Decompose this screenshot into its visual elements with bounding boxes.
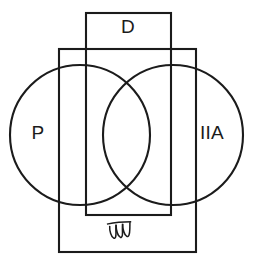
universal-set-symbol-icon (107, 220, 133, 239)
label-set-p: P (32, 122, 45, 143)
venn-diagram-canvas: D P IIA (0, 0, 253, 265)
venn-diagram-svg: D P IIA (0, 0, 253, 265)
label-set-d: D (121, 16, 135, 37)
label-set-iia: IIA (200, 122, 224, 143)
